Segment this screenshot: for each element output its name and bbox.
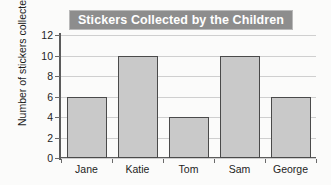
gridline (61, 76, 316, 77)
y-axis-tick-label: 10 (31, 51, 53, 62)
y-axis-tick-mark (55, 97, 60, 98)
bar (118, 56, 158, 159)
y-axis-tick-mark (55, 158, 60, 159)
y-axis-tick-mark (55, 56, 60, 57)
bar-chart-figure: Stickers Collected by the Children Numbe… (0, 0, 331, 185)
chart-title: Stickers Collected by the Children (78, 14, 284, 27)
y-axis-tick-label: 8 (31, 71, 53, 82)
x-axis-category-label: George (265, 164, 316, 175)
x-axis-tick-mark (163, 159, 164, 163)
x-axis-tick-mark (112, 159, 113, 163)
y-axis-tick-mark (55, 117, 60, 118)
y-axis-tick-label: 6 (31, 92, 53, 103)
x-axis-category-label: Tom (163, 164, 214, 175)
bar (271, 97, 311, 159)
gridline (61, 35, 316, 36)
x-axis-tick-mark (316, 159, 317, 163)
gridline (61, 56, 316, 57)
x-axis-category-label: Jane (61, 164, 112, 175)
gridline (61, 158, 316, 159)
y-axis-tick-mark (55, 35, 60, 36)
bar (220, 56, 260, 159)
x-axis-category-label: Katie (112, 164, 163, 175)
plot-area (61, 35, 316, 158)
chart-title-banner: Stickers Collected by the Children (70, 11, 292, 29)
x-axis-tick-mark (265, 159, 266, 163)
y-axis-tick-mark (55, 76, 60, 77)
y-axis-tick-mark (55, 138, 60, 139)
y-axis-tick-labels: 024681012 (27, 0, 53, 185)
y-axis-tick-label: 2 (31, 133, 53, 144)
x-axis-tick-mark (214, 159, 215, 163)
y-axis-tick-label: 12 (31, 30, 53, 41)
bar (169, 117, 209, 158)
y-axis-tick-label: 4 (31, 112, 53, 123)
x-axis-category-label: Sam (214, 164, 265, 175)
x-axis-tick-mark (61, 159, 62, 163)
bar (67, 97, 107, 159)
y-axis-tick-label: 0 (31, 153, 53, 164)
